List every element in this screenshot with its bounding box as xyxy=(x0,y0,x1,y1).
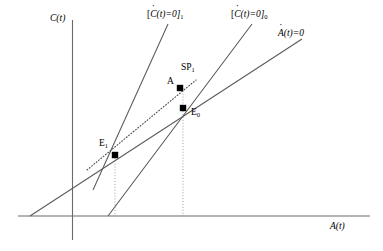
c-dot-accent-1: C xyxy=(150,10,156,20)
marker-point-e0 xyxy=(180,105,186,111)
axes-group xyxy=(18,20,370,240)
point-label-e0: E0 xyxy=(191,108,200,118)
x-axis-label: A(t) xyxy=(330,222,345,232)
phase-diagram-canvas xyxy=(0,0,383,251)
cdot-zero-1-line xyxy=(93,24,168,190)
point-label-e1: E1 xyxy=(99,139,108,149)
cdot-zero-0-line xyxy=(108,24,252,216)
droplines-group xyxy=(115,88,183,216)
phase-diagram-figure: C(t) A(t) [C(t)=0]1 [C(t)=0]0 A(t)=0 SP1… xyxy=(0,0,383,251)
y-axis-label: C(t) xyxy=(50,14,65,24)
marker-point-e1 xyxy=(112,152,118,158)
curve-label-saddle-path: SP1 xyxy=(181,63,195,73)
saddle-path-sp1 xyxy=(87,80,196,170)
curve-label-adot-zero: A(t)=0 xyxy=(278,29,304,39)
curve-label-cdot-zero-1: [C(t)=0]1 xyxy=(147,10,184,20)
curve-label-cdot-zero-0: [C(t)=0]0 xyxy=(231,10,268,20)
saddle-path-group xyxy=(87,80,196,170)
adot-zero-line xyxy=(30,39,302,216)
marker-point-a xyxy=(177,85,183,91)
point-label-a: A xyxy=(167,77,174,87)
loci-group xyxy=(30,24,302,216)
a-dot-accent: A xyxy=(278,29,284,39)
c-dot-accent-0: C xyxy=(234,10,240,20)
